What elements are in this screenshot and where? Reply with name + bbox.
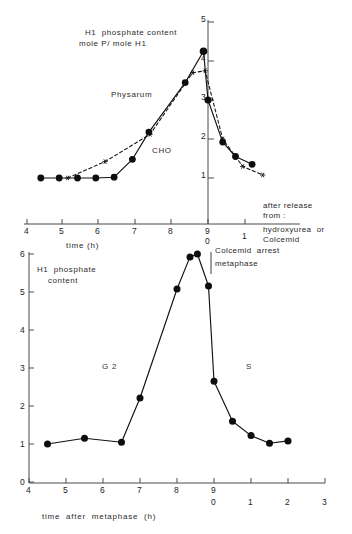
top-note-line4: Colcemid <box>263 235 300 245</box>
top-y-tick-1: 1 <box>201 170 206 181</box>
top-heading-line1: H1 phosphate content <box>85 28 177 39</box>
top-x-tick-7: 7 <box>132 226 137 237</box>
top-series-label-cho: CHO <box>152 146 172 157</box>
top-x-tick-6: 6 <box>95 226 100 237</box>
bottom-y-tick-0: 0 <box>20 477 25 488</box>
bottom-x-tick2-0: 0 <box>211 497 216 508</box>
bottom-y-tick-2: 2 <box>20 401 25 412</box>
top-series-cho-markers <box>65 69 265 181</box>
bottom-y-tick-3: 3 <box>20 363 25 374</box>
bottom-series-line <box>48 254 289 444</box>
bottom-x-tick-9: 9 <box>211 485 216 496</box>
top-note-line2: from : <box>263 211 286 221</box>
top-series-physarum-line <box>41 51 252 178</box>
top-x-tick-4: 4 <box>24 226 29 237</box>
bottom-x-tick-5: 5 <box>63 485 68 496</box>
top-series-physarum-markers <box>37 48 255 182</box>
top-x-tick-zero: 0 <box>205 236 210 247</box>
top-x-ticks <box>27 219 245 224</box>
bottom-x-tick-7: 7 <box>137 485 142 496</box>
bottom-x-tick2-1: 1 <box>248 497 253 508</box>
bottom-y-axis-title-line1: H1 phosphate <box>37 265 96 276</box>
top-y-tick-5: 5 <box>201 14 206 25</box>
top-note-line1: after release <box>263 201 313 211</box>
top-y-tick-4: 4 <box>201 53 206 64</box>
top-series-cho-line <box>68 71 263 178</box>
bottom-y-tick-6: 6 <box>20 249 25 260</box>
colcemid-annotation-line2: metaphase <box>215 259 258 269</box>
phase-label-s: S <box>246 362 252 373</box>
bottom-x-ticks <box>29 478 325 483</box>
top-series-label-physarum: Physarum <box>111 90 152 101</box>
top-x-tick-1: 1 <box>242 231 247 242</box>
bottom-y-tick-5: 5 <box>20 287 25 298</box>
colcemid-annotation-line1: Colcemid arrest <box>215 246 280 256</box>
figure-root: H1 phosphate content mole P/ mole H1 Phy… <box>0 0 352 534</box>
top-y-tick-3: 3 <box>201 92 206 103</box>
bottom-x-tick-4: 4 <box>26 485 31 496</box>
top-x-tick-8: 8 <box>168 226 173 237</box>
top-y-tick-2: 2 <box>201 131 206 142</box>
bottom-y-tick-4: 4 <box>20 325 25 336</box>
bottom-x-tick-8: 8 <box>174 485 179 496</box>
bottom-series-markers <box>44 251 292 448</box>
bottom-y-tick-1: 1 <box>20 439 25 450</box>
top-panel <box>24 20 300 224</box>
top-x-tick-5: 5 <box>59 226 64 237</box>
phase-label-g2: G 2 <box>102 362 117 373</box>
top-x-tick-9: 9 <box>205 226 210 237</box>
bottom-x-tick-6: 6 <box>100 485 105 496</box>
bottom-y-ticks <box>29 254 34 482</box>
top-note-line3: hydroxyurea or <box>263 225 325 235</box>
bottom-y-axis-title-line2: content <box>48 276 78 287</box>
bottom-x-tick2-3: 3 <box>322 497 327 508</box>
top-x-axis-title: time (h) <box>66 241 99 252</box>
top-heading-line2: mole P/ mole H1 <box>79 39 146 50</box>
bottom-x-tick2-2: 2 <box>285 497 290 508</box>
bottom-x-axis-title: time after metaphase (h) <box>42 512 156 523</box>
